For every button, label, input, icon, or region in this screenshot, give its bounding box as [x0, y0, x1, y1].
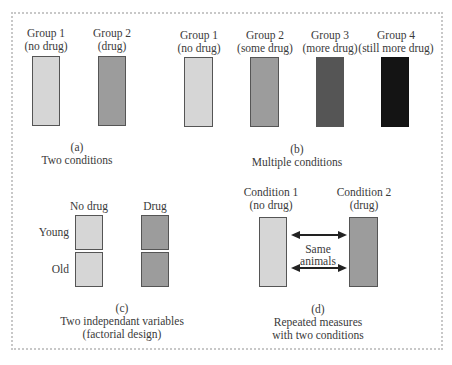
condition-2-bar	[349, 217, 378, 287]
young-no-drug-cell	[75, 215, 103, 250]
b-group-4-bar	[381, 57, 409, 127]
row-young: Young	[39, 226, 69, 239]
group-1-label: Group 1	[27, 27, 65, 40]
group-2-condition: (drug)	[98, 40, 127, 53]
old-no-drug-cell	[75, 252, 103, 287]
b-group-2-label: Group 2	[246, 29, 284, 42]
panel-b-caption: Multiple conditions	[252, 156, 342, 169]
old-drug-cell	[141, 252, 169, 287]
panel-c-letter: (c)	[116, 302, 129, 315]
condition-1-bar	[259, 217, 287, 287]
b-group-1-bar	[184, 57, 213, 127]
condition-1-detail: (no drug)	[249, 199, 292, 212]
row-old: Old	[52, 263, 69, 276]
group-1-condition: (no drug)	[24, 40, 67, 53]
panel-d-letter: (d)	[311, 303, 324, 316]
b-group-2-bar	[250, 57, 279, 127]
double-arrow-icon	[291, 230, 347, 240]
group-2-label: Group 2	[93, 27, 131, 40]
panel-c-caption-line2: (factorial design)	[83, 328, 162, 341]
b-group-2-condition: (some drug)	[237, 42, 293, 55]
column-drug: Drug	[143, 200, 167, 213]
b-group-4-condition: (still more drug)	[358, 42, 433, 55]
panel-b-letter: (b)	[290, 143, 303, 156]
panel-c-caption-line1: Two independant variables	[60, 315, 184, 328]
b-group-1-condition: (no drug)	[177, 42, 220, 55]
same-animals-line2: animals	[300, 255, 336, 268]
condition-2-label: Condition 2	[337, 186, 392, 199]
column-no-drug: No drug	[70, 200, 108, 213]
group-1-bar	[32, 56, 60, 126]
panel-a-letter: (a)	[71, 141, 84, 154]
b-group-3-bar	[316, 57, 344, 127]
b-group-1-label: Group 1	[180, 29, 218, 42]
panel-a-caption: Two conditions	[41, 154, 112, 167]
b-group-3-label: Group 3	[311, 29, 349, 42]
young-drug-cell	[141, 215, 169, 250]
group-2-bar	[98, 56, 126, 126]
panel-d-caption-line1: Repeated measures	[274, 316, 362, 329]
b-group-3-condition: (more drug)	[302, 42, 357, 55]
b-group-4-label: Group 4	[377, 29, 415, 42]
condition-1-label: Condition 1	[244, 186, 299, 199]
condition-2-detail: (drug)	[350, 199, 379, 212]
panel-d-caption-line2: with two conditions	[272, 329, 363, 342]
figure-frame	[11, 12, 443, 350]
